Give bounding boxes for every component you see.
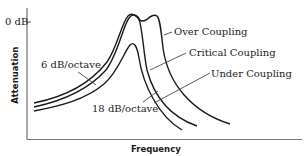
under-coupling-leader <box>154 73 210 103</box>
under-coupling-curve <box>34 44 182 130</box>
over-coupling-label: Over Coupling <box>174 27 247 37</box>
y-tick-label-0db: 0 dB <box>5 17 28 27</box>
slope6-leader <box>78 72 96 85</box>
slope-6db-label: 6 dB/octave <box>41 60 101 70</box>
y-axis-label: Attenuation <box>11 47 20 104</box>
over-coupling-leader <box>164 32 172 35</box>
critical-coupling-label: Critical Coupling <box>189 48 276 58</box>
under-coupling-label: Under Coupling <box>211 69 292 79</box>
slope-18db-label: 18 dB/octave <box>92 104 158 114</box>
x-axis-label: Frequency <box>131 145 181 154</box>
